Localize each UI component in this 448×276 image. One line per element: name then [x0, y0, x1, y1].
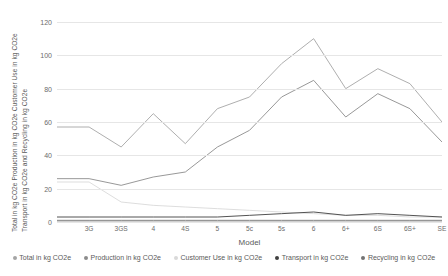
legend-item-production-in-kg-co2e[interactable]: Production in kg CO2e — [84, 254, 161, 261]
legend-swatch-icon — [13, 256, 17, 260]
legend-label: Recycling in kg CO2e — [368, 254, 435, 261]
gridline-60 — [57, 122, 442, 123]
y-axis-title-line-2: Transport in kg CO2e and Recycling in kg… — [21, 89, 28, 232]
x-axis-title: Model — [57, 238, 442, 247]
plot-area: 3G3GS44S55c5s66+6S6S+SE — [57, 22, 442, 222]
x-tick-label-5: 5 — [216, 225, 220, 232]
y-tick-label-0: 0 — [26, 219, 52, 226]
gridline-120 — [57, 22, 442, 23]
y-tick-label-100: 100 — [26, 52, 52, 59]
legend-label: Total in kg CO2e — [19, 254, 71, 261]
line-chart: Total in kg CO2e Production in kg CO2e C… — [0, 0, 448, 276]
x-tick-label-SE: SE — [438, 225, 447, 232]
x-tick-label-3G: 3G — [85, 225, 94, 232]
y-tick-label-120: 120 — [26, 19, 52, 26]
series-line-transport-in-kg-co2e — [57, 212, 442, 217]
x-tick-label-6plus: 6+ — [342, 225, 350, 232]
gridline-20 — [57, 189, 442, 190]
series-line-customer-use-in-kg-co2e — [57, 182, 442, 217]
legend-item-recycling-in-kg-co2e[interactable]: Recycling in kg CO2e — [361, 254, 435, 261]
gridline-0 — [57, 222, 442, 223]
x-tick-label-4S: 4S — [181, 225, 189, 232]
y-tick-label-20: 20 — [26, 185, 52, 192]
legend-swatch-icon — [84, 256, 88, 260]
series-line-production-in-kg-co2e — [57, 80, 442, 185]
y-tick-label-80: 80 — [26, 85, 52, 92]
legend-label: Transport in kg CO2e — [282, 254, 349, 261]
legend-swatch-icon — [361, 256, 365, 260]
legend-item-customer-use-in-kg-co2e[interactable]: Customer Use in kg CO2e — [174, 254, 262, 261]
legend-label: Production in kg CO2e — [91, 254, 161, 261]
x-tick-label-6Splus: 6S+ — [404, 225, 416, 232]
chart-legend: Total in kg CO2eProduction in kg CO2eCus… — [0, 254, 448, 261]
gridline-40 — [57, 155, 442, 156]
legend-swatch-icon — [275, 256, 279, 260]
x-tick-label-5s: 5s — [278, 225, 285, 232]
legend-item-transport-in-kg-co2e[interactable]: Transport in kg CO2e — [275, 254, 348, 261]
legend-swatch-icon — [174, 256, 178, 260]
x-tick-label-6: 6 — [312, 225, 316, 232]
y-tick-label-60: 60 — [26, 119, 52, 126]
gridline-100 — [57, 55, 442, 56]
x-tick-label-6S: 6S — [374, 225, 382, 232]
legend-item-total-in-kg-co2e[interactable]: Total in kg CO2e — [13, 254, 71, 261]
x-tick-label-3GS: 3GS — [115, 225, 128, 232]
y-tick-label-40: 40 — [26, 152, 52, 159]
x-tick-label-4: 4 — [151, 225, 155, 232]
gridline-80 — [57, 89, 442, 90]
x-tick-label-5c: 5c — [246, 225, 253, 232]
x-axis-line — [57, 221, 442, 222]
legend-label: Customer Use in kg CO2e — [181, 254, 263, 261]
y-axis-title-line-1: Total in kg CO2e Production in kg CO2e C… — [11, 33, 18, 232]
